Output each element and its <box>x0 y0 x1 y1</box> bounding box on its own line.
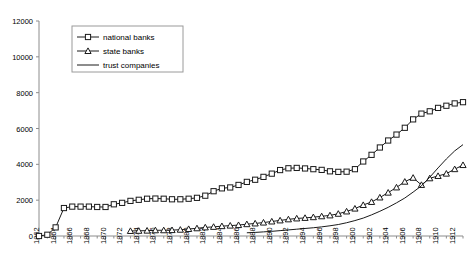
chart-legend: national banksstate bankstrust companies <box>72 26 183 72</box>
y-tick-label: 6000 <box>16 125 33 134</box>
y-tick-label: 2000 <box>16 196 33 205</box>
x-tick-label: 1908 <box>414 227 423 244</box>
x-tick-label: 1912 <box>448 227 457 244</box>
x-tick-label: 1868 <box>82 227 91 244</box>
x-tick-label: 1886 <box>232 227 241 244</box>
legend-label: trust companies <box>103 61 159 70</box>
x-tick-label: 1906 <box>398 227 407 244</box>
x-tick-label: 1890 <box>265 227 274 244</box>
x-axis: 1862186418661868187018721874187618781880… <box>32 227 463 244</box>
x-tick-label: 1894 <box>298 227 307 244</box>
legend-label: national banks <box>103 33 155 42</box>
x-tick-label: 1910 <box>431 227 440 244</box>
line-chart: 020004000600080001000012000 186218641866… <box>0 0 469 275</box>
y-axis: 020004000600080001000012000 <box>12 17 39 241</box>
series-national-banks <box>36 100 465 239</box>
x-tick-label: 1900 <box>348 227 357 244</box>
x-tick-label: 1870 <box>99 227 108 244</box>
x-tick-label: 1898 <box>331 227 340 244</box>
x-tick-label: 1896 <box>315 227 324 244</box>
y-tick-label: 8000 <box>16 89 33 98</box>
x-tick-label: 1902 <box>365 227 374 244</box>
x-tick-label: 1904 <box>381 227 390 244</box>
x-tick-label: 1888 <box>248 227 257 244</box>
y-tick-label: 10000 <box>12 53 33 62</box>
chart-container: 020004000600080001000012000 186218641866… <box>0 0 469 275</box>
y-tick-label: 12000 <box>12 17 33 26</box>
x-tick-label: 1866 <box>65 227 74 244</box>
legend-label: state banks <box>103 47 144 56</box>
x-tick-label: 1872 <box>115 227 124 244</box>
series-layer <box>36 100 466 239</box>
y-tick-label: 4000 <box>16 160 33 169</box>
